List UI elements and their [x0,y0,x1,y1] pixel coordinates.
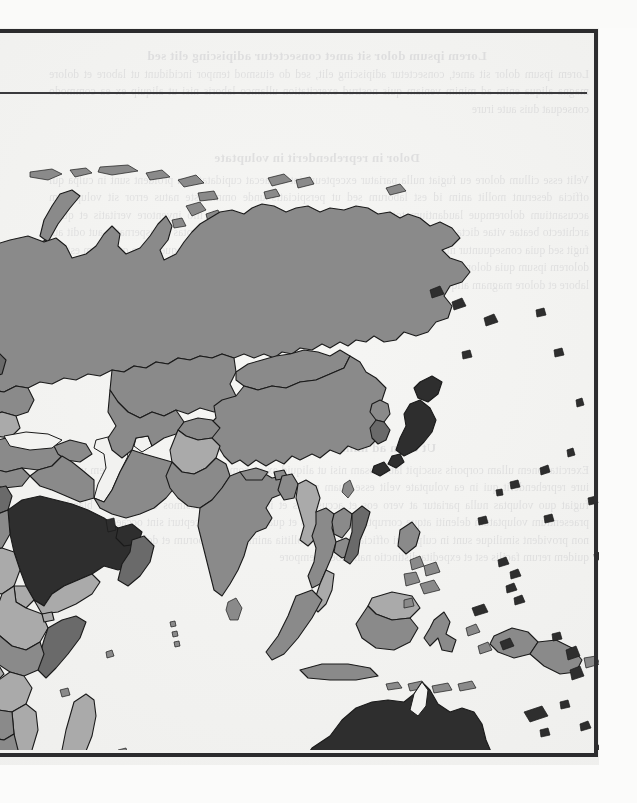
scan-margin-bottom [0,765,637,803]
paper-background [0,0,637,803]
scan-margin-top [0,0,637,28]
scan-margin-right [599,0,637,803]
page-header-rule [0,92,587,94]
scanned-page: Lorem ipsum dolor sit amet consectetur a… [0,0,637,803]
page-frame-rule-bottom [0,753,598,757]
page-frame-rule-right [594,29,598,757]
page-frame-rule-top [0,29,598,33]
